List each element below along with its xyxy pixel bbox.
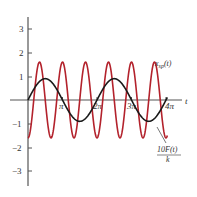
force-label-numerator: 10F(t)	[157, 145, 178, 154]
y-tick-label-m1: −1	[12, 119, 22, 129]
xsp-label-suffix: (t)	[164, 59, 172, 68]
y-tick-label-m2: −2	[12, 143, 22, 153]
y-tick-label-m3: −3	[12, 166, 22, 176]
force-label-denominator: k	[166, 155, 170, 164]
y-tick-label-2: 2	[19, 48, 24, 58]
y-tick-label-3: 3	[19, 24, 24, 34]
x-axis-label: t	[185, 96, 188, 106]
x-tick-label-4pi: 4π	[165, 101, 175, 111]
y-tick-label-1: 1	[19, 72, 24, 82]
chart: 3 2 1 −1 −2 −3 π 2π 3π 4π t xsp(t) 10F(t…	[0, 0, 197, 197]
xsp-label: xsp(t)	[154, 59, 172, 69]
